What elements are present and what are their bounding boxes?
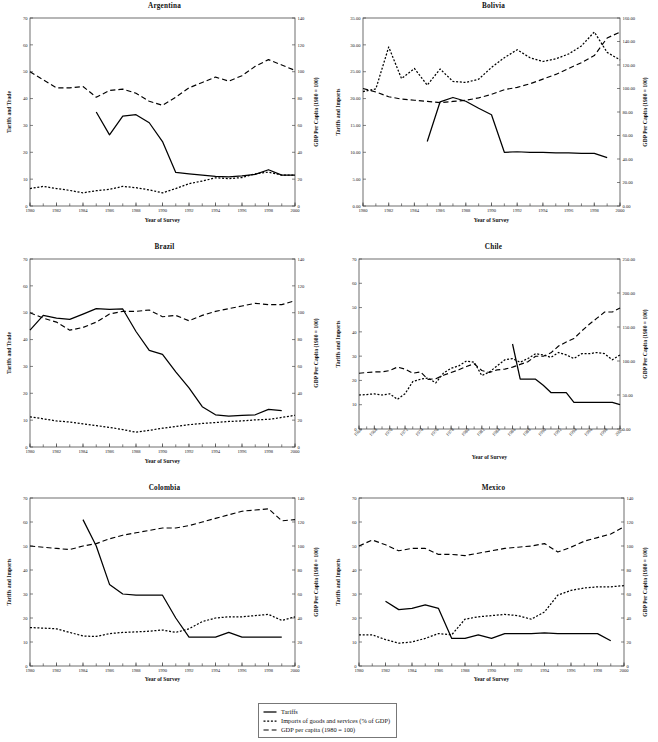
- legend-label: Tariffs: [281, 708, 298, 715]
- y2-axis-title: GDP Per Capita (1980 = 100): [313, 77, 320, 147]
- y-tick-label: 40: [23, 337, 28, 342]
- y-tick-label: 30: [352, 592, 357, 597]
- x-tick-label: 1980: [460, 427, 471, 438]
- x-tick-label: 1978: [445, 427, 456, 438]
- y2-tick-label: 140: [298, 16, 306, 21]
- x-tick-label: 1984: [491, 427, 502, 438]
- y2-tick-label: 20: [627, 640, 632, 645]
- y2-tick-label: 40: [298, 150, 303, 155]
- y2-axis-title: GDP Per Capita (1980 = 100): [642, 77, 649, 147]
- y-tick-label: 35.00: [350, 16, 361, 21]
- series-line-dotted: [359, 353, 620, 400]
- x-tick-label: 2000: [619, 668, 629, 673]
- y2-tick-label: 200.00: [623, 291, 636, 296]
- y-tick-label: 60: [23, 43, 28, 48]
- plot-area-colombia: 0102030405060700204060801001201401980198…: [0, 484, 329, 696]
- x-tick-label: 1994: [211, 668, 221, 673]
- x-axis-title: Year of Survey: [474, 217, 510, 223]
- y-tick-label: 25.00: [350, 69, 361, 74]
- x-tick-label: 1990: [158, 208, 168, 213]
- y-tick-label: 60: [23, 284, 28, 289]
- y2-tick-label: 80: [298, 96, 303, 101]
- x-tick-label: 1998: [599, 427, 610, 438]
- y-axis-title: Tariffs and Imports: [335, 558, 341, 606]
- y-axis-title: Tariffs and Trade: [6, 91, 12, 133]
- series-line-dashed: [359, 527, 624, 556]
- series-line-dotted: [359, 586, 624, 644]
- series-line-dashed: [359, 308, 620, 379]
- y2-tick-label: 20: [298, 418, 303, 423]
- x-tick-label: 1998: [593, 668, 603, 673]
- y2-tick-label: 100.00: [623, 359, 636, 364]
- legend-key-dotted-icon: [263, 716, 277, 725]
- series-line-dotted: [30, 172, 295, 193]
- x-tick-label: 1990: [158, 449, 168, 454]
- x-tick-label: 1968: [368, 427, 379, 438]
- y-tick-label: 30: [23, 364, 28, 369]
- series-line-solid: [386, 601, 611, 641]
- x-axis-title: Year of Survey: [145, 458, 181, 464]
- legend-item: Imports of goods and services (% of GDP): [263, 716, 390, 725]
- figure-sheet: Argentina0102030405060700204060801001201…: [0, 0, 658, 742]
- y-tick-label: 10: [23, 177, 28, 182]
- y-tick-label: 50: [23, 544, 28, 549]
- x-tick-label: 1982: [381, 668, 391, 673]
- y-tick-label: 10: [23, 640, 28, 645]
- y2-axis-title: GDP Per Capita (1980 = 100): [642, 547, 649, 617]
- y2-tick-label: 20: [298, 640, 303, 645]
- y-tick-label: 20: [23, 391, 28, 396]
- y-tick-label: 70: [23, 496, 28, 501]
- panel-colombia: Colombia01020304050607002040608010012014…: [0, 484, 329, 696]
- y2-tick-label: 50.00: [623, 393, 634, 398]
- x-tick-label: 1992: [184, 208, 194, 213]
- series-line-dashed: [30, 509, 295, 550]
- x-axis-title: Year of Survey: [474, 676, 510, 682]
- y2-tick-label: 40: [298, 391, 303, 396]
- x-tick-label: 2000: [290, 208, 300, 213]
- plot-frame: [30, 259, 295, 447]
- y2-tick-label: 250.00: [623, 257, 636, 262]
- y2-tick-label: 80: [298, 568, 303, 573]
- plot-area-mexico: 0102030405060700204060801001201401980198…: [329, 484, 658, 696]
- x-tick-label: 1986: [436, 208, 446, 213]
- legend-item: Tariffs: [263, 707, 390, 716]
- x-tick-label: 1982: [384, 208, 394, 213]
- x-tick-label: 1980: [25, 668, 35, 673]
- x-tick-label: 1988: [131, 449, 141, 454]
- x-tick-label: 1984: [78, 449, 88, 454]
- x-tick-label: 1998: [264, 208, 274, 213]
- y2-tick-label: 60: [298, 364, 303, 369]
- y-tick-label: 20: [23, 150, 28, 155]
- panel-title: Brazil: [0, 243, 329, 251]
- x-tick-label: 1980: [25, 208, 35, 213]
- y-tick-label: 30: [23, 592, 28, 597]
- y2-tick-label: 100: [298, 69, 306, 74]
- y2-tick-label: 100.00: [623, 86, 636, 91]
- x-tick-label: 1986: [105, 208, 115, 213]
- y-tick-label: 30.00: [350, 43, 361, 48]
- y-tick-label: 70: [352, 257, 357, 262]
- x-tick-label: 1984: [78, 208, 88, 213]
- panel-brazil: Brazil0102030405060700204060801001201401…: [0, 243, 329, 481]
- x-tick-label: 1994: [538, 208, 548, 213]
- panel-title: Bolivia: [329, 2, 658, 10]
- x-tick-label: 1996: [237, 208, 247, 213]
- y2-tick-label: 140: [298, 496, 306, 501]
- x-tick-label: 1982: [476, 427, 487, 438]
- plot-frame: [30, 498, 295, 666]
- x-tick-label: 1980: [354, 668, 364, 673]
- x-tick-label: 1992: [513, 668, 523, 673]
- y2-tick-label: 60.00: [623, 133, 634, 138]
- series-line-solid: [427, 98, 607, 158]
- panel-title: Mexico: [329, 484, 658, 492]
- y-tick-label: 10.00: [350, 150, 361, 155]
- y-tick-label: 20: [23, 616, 28, 621]
- plot-area-argentina: 0102030405060700204060801001201401980198…: [0, 2, 329, 240]
- series-line-dotted: [30, 614, 295, 636]
- y2-tick-label: 100: [627, 544, 635, 549]
- y2-tick-label: 160.00: [623, 16, 636, 21]
- x-tick-label: 1998: [590, 208, 600, 213]
- y2-tick-label: 80.00: [623, 110, 634, 115]
- x-tick-label: 1992: [184, 449, 194, 454]
- series-line-dashed: [363, 32, 620, 103]
